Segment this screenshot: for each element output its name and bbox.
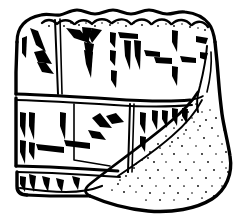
cuneiform-wedge-icon xyxy=(154,57,172,64)
clay-tablet-icon xyxy=(0,0,239,224)
figure-root: Cuneiform tablet fragment line drawing B… xyxy=(0,0,239,224)
